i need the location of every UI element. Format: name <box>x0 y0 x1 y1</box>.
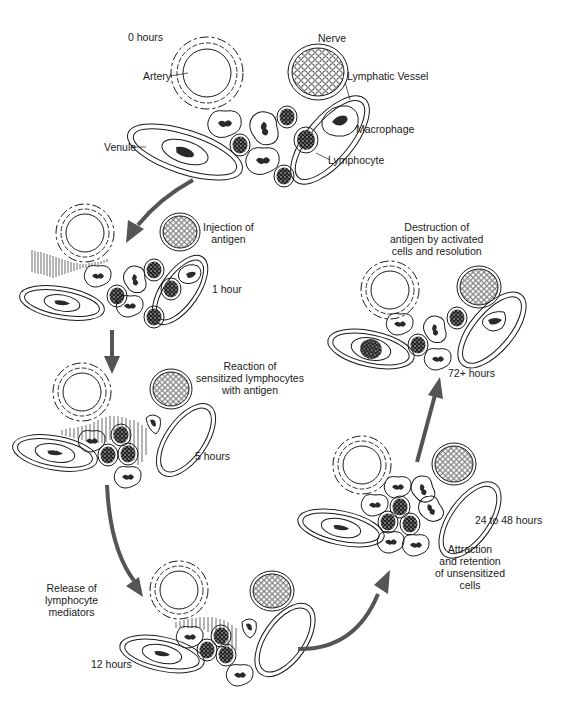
arrow-24h-to-72h <box>417 377 443 462</box>
time-label-5-hours: 5 hours <box>195 450 230 462</box>
time-label-0-hours: 0 hours <box>128 31 163 43</box>
lymphatic-vessel-label: Lymphatic Vessel <box>347 70 428 82</box>
lymphocyte <box>294 127 318 153</box>
nerve-label: Nerve <box>318 32 346 44</box>
stage-12-hours <box>116 561 327 687</box>
stage-72h-description: Destruction of antigen by activated cell… <box>390 221 483 257</box>
stage-0-hours <box>121 37 383 197</box>
macrophage-label: Macrophage <box>356 123 414 135</box>
stage-5h-description: Reaction of sensitized lymphocytes with … <box>196 360 304 396</box>
time-label-72-hours: 72+ hours <box>448 367 495 379</box>
venule-label: Venule <box>104 141 136 153</box>
time-label-12-hours: 12 hours <box>91 658 132 670</box>
lymphocyte-label: Lymphocyte <box>328 154 384 166</box>
nerve <box>250 571 294 611</box>
stage-12h-description: Release of lymphocyte mediators <box>45 582 98 618</box>
nerve <box>432 443 476 485</box>
lymphatic-vessel <box>277 83 383 197</box>
stage-24-48h-description: Attraction and retention of unsensitized… <box>435 543 505 591</box>
stage-1h-description: Injection of antigen <box>203 221 254 245</box>
macrophage <box>322 106 359 136</box>
stage-72-hours <box>324 261 538 379</box>
nerve <box>288 44 348 100</box>
arrow-5h-to-12h <box>107 485 143 597</box>
nerve <box>150 369 192 409</box>
nerve <box>160 213 200 251</box>
arrow-1h-to-5h <box>104 330 120 374</box>
stage-5-hours <box>10 363 228 488</box>
time-label-24-48-hours: 24 to 48 hours <box>475 514 542 526</box>
nerve <box>457 266 501 308</box>
time-label-1-hour: 1 hour <box>212 283 242 295</box>
stage-1-hour <box>17 204 219 334</box>
artery-label: Artery <box>143 70 171 82</box>
